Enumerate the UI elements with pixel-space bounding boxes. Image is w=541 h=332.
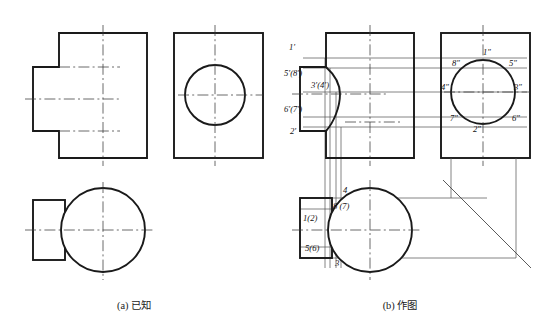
side-label-5: 5″ — [509, 58, 517, 68]
bottom-label-3: 3 — [334, 258, 339, 268]
panel-b-construction: 1′ 5′(8′) 3′(4′) 6′(7′) 2′ 1″ 8″ 5″ 4″ 3… — [284, 25, 531, 312]
caption-b: (b) 作图 — [383, 300, 418, 312]
side-label-3: 3″ — [513, 82, 522, 92]
front-label-34: 3′(4′) — [310, 80, 329, 90]
caption-a: (a) 已知 — [117, 299, 151, 312]
bottom-label-4: 4 — [343, 185, 348, 195]
a-bottom-view — [25, 182, 153, 280]
b-front-view — [292, 25, 414, 166]
drawing-canvas: (a) 已知 — [0, 0, 541, 332]
front-label-67: 6′(7′) — [284, 104, 302, 114]
45-degree-miter-line — [443, 180, 531, 268]
side-label-8: 8″ — [452, 58, 460, 68]
b-horizontal-projection-lines — [303, 58, 527, 127]
a-front-view — [25, 25, 147, 166]
bottom-label-56: 5(6) — [305, 243, 319, 253]
side-label-7: 7″ — [450, 113, 458, 123]
front-label-58: 5′(8′) — [284, 68, 302, 78]
bottom-label-12: 1(2) — [303, 213, 317, 223]
front-label-2: 2′ — [290, 126, 296, 136]
b-bottom-view — [292, 180, 420, 280]
front-label-1: 1′ — [289, 42, 295, 52]
b-front-outline — [300, 33, 414, 158]
side-label-1: 1″ — [483, 47, 491, 57]
panel-a-given: (a) 已知 — [25, 25, 263, 312]
b-front-intersection-curve — [326, 67, 340, 131]
engineering-drawing-figure: (a) 已知 — [0, 0, 541, 332]
front-point-labels: 1′ 5′(8′) 3′(4′) 6′(7′) 2′ — [284, 42, 329, 136]
side-label-4: 4″ — [441, 82, 449, 92]
a-front-outline — [33, 33, 147, 158]
a-side-view — [174, 25, 263, 166]
a-side-outline — [174, 33, 263, 158]
side-label-2: 2″ — [473, 124, 481, 134]
bottom-label-87: 8 (7) — [333, 201, 350, 211]
side-label-6: 6″ — [512, 113, 520, 123]
